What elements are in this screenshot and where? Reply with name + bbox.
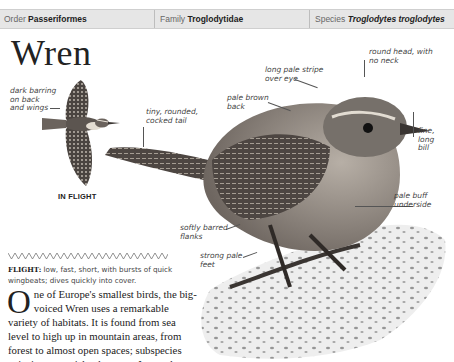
leader-line [364,60,365,77]
order-label: Order [4,14,26,24]
taxonomy-header: Order Passeriformes Family Troglodytidae… [0,9,454,29]
order-cell: Order Passeriformes [0,10,155,28]
annotation-underside: pale buff underside [394,192,431,209]
annotation-bill: fine, long bill [418,127,435,153]
flight-pattern-zigzag-icon [8,252,168,260]
in-flight-caption: IN FLIGHT [58,192,96,201]
family-value: Troglodytidae [187,14,243,24]
drop-cap: O [7,289,31,315]
annotation-flanks: softly barred flanks [180,224,228,241]
species-cell: Species Troglodytes troglodytes [310,10,454,28]
flight-label: FLIGHT: [8,265,41,274]
species-value: Troglodytes troglodytes [348,14,445,24]
annotation-dark-barring: dark barring on back and wings [10,87,56,113]
annotation-eye-stripe: long pale stripe over eye [265,66,323,83]
annotation-head: round head, with no neck [369,48,433,65]
species-label: Species [315,14,345,24]
page-title: Wren [11,33,92,73]
leader-line [413,112,414,137]
annotation-tail: tiny, rounded, cocked tail [146,108,198,125]
order-value: Passeriformes [28,14,87,24]
body-paragraph: O ne of Europe's smallest birds, the big… [8,287,222,362]
family-label: Family [160,14,185,24]
leader-line [143,127,144,147]
flight-description: FLIGHT: low, fast, short, with bursts of… [8,264,208,286]
annotation-back: pale brown back [227,94,269,111]
family-cell: Family Troglodytidae [155,10,310,28]
